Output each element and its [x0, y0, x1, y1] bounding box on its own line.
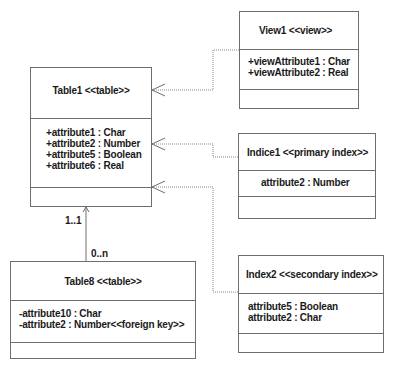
attribute: -attribute10 : Char — [19, 308, 195, 319]
attribute: -attribute2 : Number<<foreign key>> — [19, 319, 195, 330]
attribute: +attribute6 : Real — [46, 160, 151, 171]
class-title: View1 <<view>> — [259, 25, 332, 36]
class-title: Table1 <<table>> — [52, 85, 129, 96]
operations-compartment — [239, 196, 375, 218]
attribute: +attribute5 : Boolean — [46, 149, 151, 160]
class-index2[interactable]: Index2 <<secondary index>> attribute5 : … — [238, 255, 384, 353]
attributes-compartment: -attribute10 : Char -attribute2 : Number… — [11, 300, 195, 342]
attribute: attribute2 : Number — [261, 177, 375, 188]
operations-compartment — [11, 342, 195, 358]
attribute: attribute5 : Boolean — [248, 301, 383, 312]
dependency-view1-table1 — [152, 50, 239, 90]
attributes-compartment: +viewAttribute1 : Char +viewAttribute2 :… — [240, 49, 358, 89]
attribute: +attribute2 : Number — [46, 138, 151, 149]
attributes-compartment: attribute5 : Boolean attribute2 : Char — [239, 293, 383, 333]
class-indice1[interactable]: Indice1 <<primary index>> attribute2 : N… — [238, 133, 376, 219]
attribute: +viewAttribute2 : Real — [248, 67, 358, 78]
operations-compartment — [31, 187, 151, 206]
attributes-compartment: attribute2 : Number — [239, 170, 375, 196]
class-title: Index2 <<secondary index>> — [246, 269, 378, 280]
class-table1[interactable]: Table1 <<table>> +attribute1 : Char +att… — [30, 67, 152, 207]
attributes-compartment: +attribute1 : Char +attribute2 : Number … — [31, 118, 151, 187]
attribute: +attribute1 : Char — [46, 127, 151, 138]
attribute: attribute2 : Char — [248, 312, 383, 323]
class-title: Table8 <<table>> — [64, 276, 141, 287]
dependency-indice1-table1 — [152, 144, 238, 157]
operations-compartment — [239, 333, 383, 352]
class-view1[interactable]: View1 <<view>> +viewAttribute1 : Char +v… — [239, 11, 359, 109]
operations-compartment — [240, 89, 358, 108]
attribute: +viewAttribute1 : Char — [248, 56, 358, 67]
class-title: Indice1 <<primary index>> — [247, 147, 368, 158]
class-table8[interactable]: Table8 <<table>> -attribute10 : Char -at… — [10, 261, 196, 359]
multiplicity-table8-end: 0..n — [91, 248, 108, 259]
multiplicity-table1-end: 1..1 — [65, 215, 82, 226]
